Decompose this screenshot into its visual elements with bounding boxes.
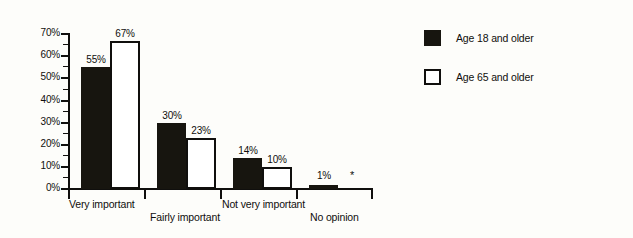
x-tick-group-1 xyxy=(144,190,146,199)
y-axis-label-20-text: 20% xyxy=(26,139,60,149)
x-tick-group-end xyxy=(371,190,373,199)
y-tick-minor-45 xyxy=(63,89,68,90)
y-axis-label-50: 50% xyxy=(22,72,60,84)
y-axis-label-30: 30% xyxy=(22,117,60,129)
x-axis-label-no-opinion: No opinion xyxy=(310,211,359,223)
bar-no-opinion-age18 xyxy=(309,185,338,189)
x-axis-label-very-important: Very important xyxy=(69,198,135,210)
y-tick-minor-65 xyxy=(63,44,68,45)
y-tick-minor-15 xyxy=(63,155,68,156)
y-axis-label-70-text: 70% xyxy=(26,28,60,38)
y-tick-10 xyxy=(61,166,68,168)
bar-fairly-important-age65 xyxy=(186,138,216,189)
legend-item-age-18-and-older: Age 18 and older xyxy=(424,28,624,50)
y-axis-label-30-text: 30% xyxy=(26,117,60,127)
y-tick-30 xyxy=(61,122,68,124)
y-axis-label-0-text: 0% xyxy=(26,183,60,193)
legend-label-age-18-and-older: Age 18 and older xyxy=(456,32,534,44)
y-tick-minor-35 xyxy=(63,111,68,112)
bar-label-very-important-age65: 67% xyxy=(105,28,145,39)
y-tick-70 xyxy=(61,33,68,35)
y-tick-50 xyxy=(61,77,68,79)
y-axis-label-40-text: 40% xyxy=(26,95,60,105)
bar-chart-plot-area: 70% 60% 50% 40% 30% 20% 10% 0% 55% 67% 3… xyxy=(0,0,400,238)
bar-label-no-opinion-age18: 1% xyxy=(304,170,344,181)
bar-very-important-age18 xyxy=(81,67,110,189)
y-tick-20 xyxy=(61,144,68,146)
y-axis-label-60-text: 60% xyxy=(26,50,60,60)
y-axis-label-0: 0% xyxy=(22,183,60,195)
y-axis-label-50-text: 50% xyxy=(26,72,60,82)
legend-swatch-filled-icon xyxy=(424,30,441,46)
y-tick-minor-55 xyxy=(63,66,68,67)
y-tick-40 xyxy=(61,100,68,102)
chart-legend: Age 18 and older Age 65 and older xyxy=(424,28,624,106)
bar-label-fairly-important-age65: 23% xyxy=(181,125,221,136)
bar-very-important-age65 xyxy=(110,41,140,189)
y-axis-label-60: 60% xyxy=(22,50,60,62)
y-tick-60 xyxy=(61,55,68,57)
y-tick-minor-25 xyxy=(63,133,68,134)
y-tick-0 xyxy=(61,188,68,190)
y-axis-label-10-text: 10% xyxy=(26,161,60,171)
y-axis-label-40: 40% xyxy=(22,95,60,107)
bar-label-no-opinion-age65: * xyxy=(350,170,354,181)
y-tick-minor-5 xyxy=(63,177,68,178)
bar-not-very-important-age65 xyxy=(262,167,292,189)
chart-page: 70% 60% 50% 40% 30% 20% 10% 0% 55% 67% 3… xyxy=(0,0,633,238)
y-axis-line xyxy=(68,33,70,190)
y-axis-label-70: 70% xyxy=(22,28,60,40)
y-axis-label-20: 20% xyxy=(22,139,60,151)
bar-label-not-very-important-age65: 10% xyxy=(257,154,297,165)
legend-label-age-65-and-older: Age 65 and older xyxy=(456,71,534,83)
y-axis-label-10: 10% xyxy=(22,161,60,173)
legend-swatch-outlined-icon xyxy=(424,69,441,85)
x-axis-label-not-very-important: Not very important xyxy=(222,198,305,210)
bar-label-fairly-important-age18: 30% xyxy=(152,110,192,121)
x-axis-label-fairly-important: Fairly important xyxy=(150,211,220,223)
legend-item-age-65-and-older: Age 65 and older xyxy=(424,67,624,89)
